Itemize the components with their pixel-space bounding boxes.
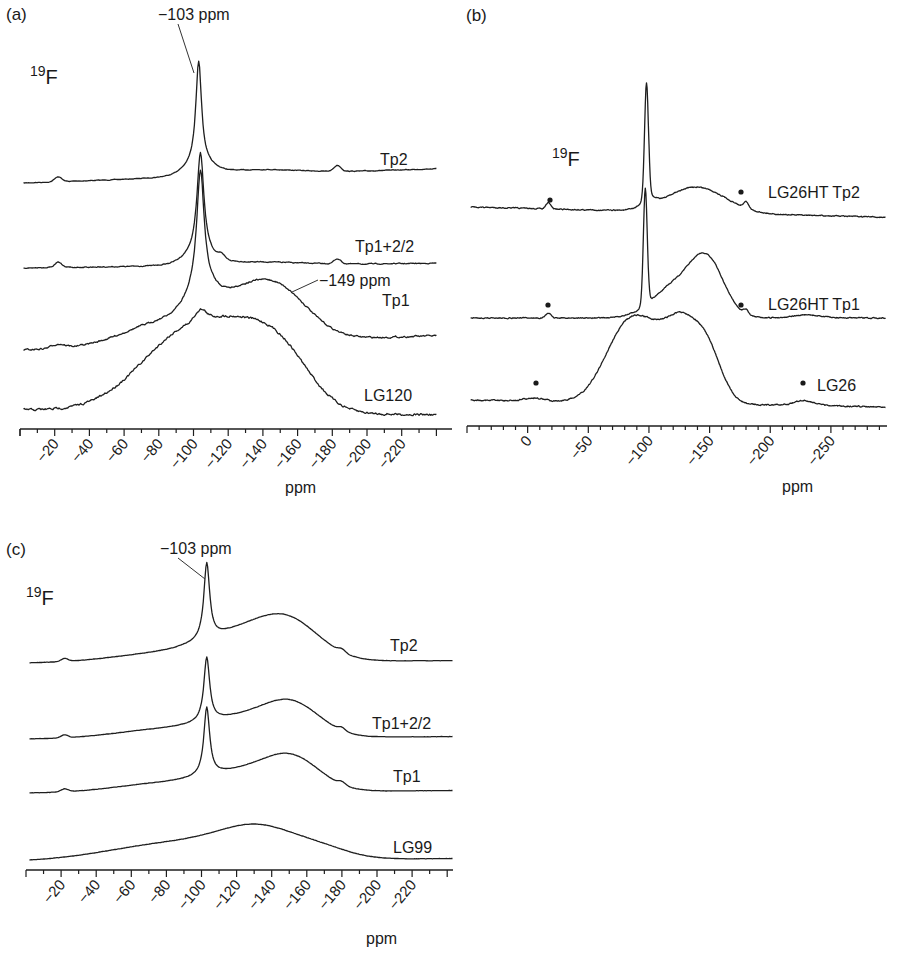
x-tick-label: −220 [374,435,409,472]
nmr-figure: (a) 19F Tp2Tp1+2/2Tp1LG120 −103 ppm−149 … [0,0,902,959]
peak-annotation: −103 ppm [158,6,230,23]
panel-b-sideband-dots [533,189,805,385]
panel-c-x-axis: −20−40−60−80−100−120−140−160−180−200−220 [26,870,453,913]
trace-label: LG26HT Tp1 [768,296,860,313]
panel-a-nucleus-label: 19F [30,63,58,88]
x-tick-label: −250 [803,432,838,469]
x-tick-label: −180 [305,435,340,472]
trace-label: LG26 [817,377,856,394]
panel-a-label: (a) [6,5,27,24]
trace-label: Tp1+2/2 [355,238,414,255]
panel-c-trace-labels: Tp2Tp1+2/2Tp1LG99 [372,637,432,856]
trace-label: LG99 [393,839,432,856]
trace-label: LG120 [364,387,412,404]
panel-c-traces [30,562,453,860]
x-tick-label: −150 [682,432,717,469]
sideband-marker [738,189,743,194]
panel-c-axis-label: ppm [366,930,397,947]
spectrum-trace-tp2 [24,61,437,183]
annotation-leader-line [178,558,205,579]
trace-label: Tp1 [382,292,410,309]
x-tick-label: −60 [109,876,138,906]
x-tick-label: −220 [385,876,420,913]
panel-a-x-axis: −20−40−60−80−100−120−140−160−180−200−220 [20,429,452,472]
x-tick-label: −200 [340,435,375,472]
sideband-marker [800,380,805,385]
panel-b-axis-label: ppm [782,478,813,495]
panel-c-label: (c) [6,540,26,559]
x-tick-label: −20 [33,435,62,465]
annotation-leader-line [178,24,194,73]
x-tick-label: −140 [235,435,270,472]
x-tick-label: −100 [174,876,209,913]
x-tick-label: −200 [350,876,385,913]
trace-label: Tp1 [393,768,421,785]
x-tick-label: −100 [622,432,657,469]
x-tick-label: −120 [209,876,244,913]
x-tick-label: −40 [67,435,96,465]
x-tick-label: −20 [39,876,68,906]
panel-b: (b) 19F LG26HT Tp2LG26HT Tp1LG26 0−50−10… [466,6,887,495]
peak-annotation: −103 ppm [160,540,232,557]
x-tick-label: −50 [566,432,595,462]
panel-c-annotations: −103 ppm [160,540,232,579]
x-tick-label: −100 [166,435,201,472]
sideband-marker [738,302,743,307]
trace-label: LG26HT Tp2 [768,184,860,201]
sideband-marker [533,380,538,385]
x-tick-label: −140 [244,876,279,913]
panel-b-x-axis: 0−50−100−150−200−250 [467,426,887,469]
panel-c-nucleus-label: 19F [26,584,54,609]
spectrum-trace-lg99 [30,824,453,860]
sideband-marker [547,197,552,202]
x-tick-label: −120 [201,435,236,472]
x-tick-label: −200 [743,432,778,469]
trace-label: Tp1+2/2 [372,715,431,732]
x-tick-label: −80 [137,435,166,465]
panel-a: (a) 19F Tp2Tp1+2/2Tp1LG120 −103 ppm−149 … [6,5,452,496]
annotation-leader-line [292,280,318,292]
panel-b-traces [471,83,886,408]
x-tick-label: −160 [279,876,314,913]
x-tick-label: −40 [74,876,103,906]
trace-label: Tp2 [380,151,408,168]
x-tick-label: −80 [144,876,173,906]
panel-b-label: (b) [466,6,487,25]
sideband-marker [545,302,550,307]
trace-label: Tp2 [390,637,418,654]
x-tick-label: 0 [517,432,535,449]
x-tick-label: −180 [314,876,349,913]
peak-annotation: −149 ppm [319,272,391,289]
x-tick-label: −160 [270,435,305,472]
x-tick-label: −60 [102,435,131,465]
panel-b-nucleus-label: 19F [552,145,580,170]
panel-c: (c) 19F Tp2Tp1+2/2Tp1LG99 −103 ppm −20−4… [6,540,453,947]
panel-a-axis-label: ppm [285,479,316,496]
